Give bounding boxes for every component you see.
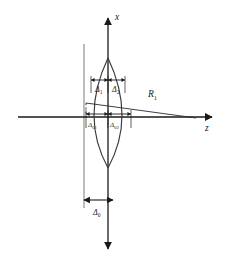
lens-right-surface xyxy=(108,58,122,168)
label-delta01: Δ01 xyxy=(87,121,97,130)
x-axis-label: x xyxy=(114,12,120,22)
label-delta0: Δ0 xyxy=(92,208,101,218)
z-axis-label: z xyxy=(204,123,209,133)
radius-line-r1 xyxy=(86,103,196,118)
label-delta02: Δ02 xyxy=(109,121,119,130)
diagram-canvas: x z R1 Δ1 Δ2 Δ01 Δ02 Δ0 xyxy=(0,0,227,264)
lens-left-surface xyxy=(94,58,108,168)
radius-label-r1: R1 xyxy=(147,89,157,101)
optics-lens-diagram: x z R1 Δ1 Δ2 Δ01 Δ02 Δ0 xyxy=(0,0,227,264)
label-delta1: Δ1 xyxy=(94,85,103,95)
